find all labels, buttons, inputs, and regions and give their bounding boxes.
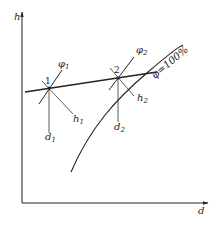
d1-label: d1 <box>45 131 56 144</box>
phi1-label: φ1 <box>58 58 69 71</box>
d2-label: d2 <box>114 121 125 134</box>
hd-diagram: h d 1 φ1 h1 d1 2 φ2 h2 d2 φ=100% <box>0 0 222 231</box>
h2-label: h2 <box>137 92 148 105</box>
state-1-label: 1 <box>45 76 51 86</box>
saturation-curve-label: φ=100% <box>149 44 190 81</box>
h1-label: h1 <box>73 113 84 126</box>
phi2-line <box>109 57 134 90</box>
y-axis-label: h <box>14 11 20 22</box>
state-2-point <box>117 77 120 80</box>
state-1-point <box>48 87 51 90</box>
phi2-label: φ2 <box>136 44 148 57</box>
x-axis-label: d <box>198 205 204 216</box>
state-1: 1 φ1 h1 d1 <box>39 58 84 144</box>
state-2-label: 2 <box>114 65 120 75</box>
